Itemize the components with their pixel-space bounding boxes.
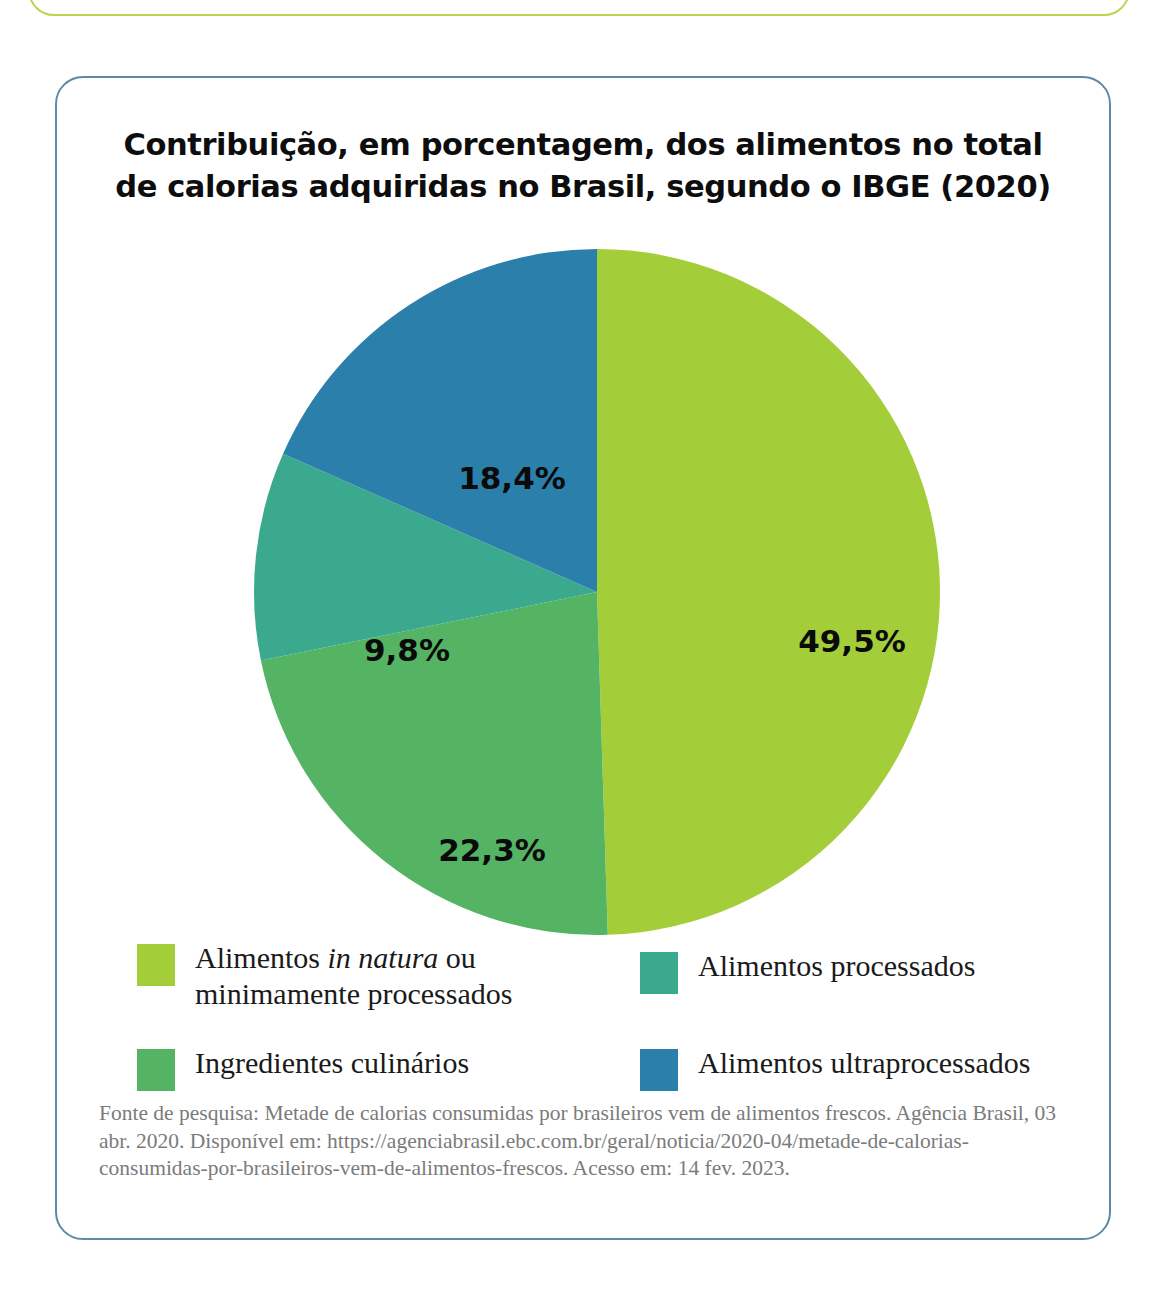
decorative-green-box-above (28, 0, 1130, 16)
pie-slice-label: 9,8% (364, 632, 450, 668)
legend-label-processados: Alimentos processados (698, 948, 975, 984)
pie-slice[interactable] (597, 249, 940, 935)
legend-swatch-ingredientes-culinarios (137, 1049, 175, 1091)
pie-slice-label: 18,4% (458, 460, 566, 496)
legend-label-ultraprocessados: Alimentos ultraprocessados (698, 1045, 1030, 1081)
legend-swatch-ultraprocessados (640, 1049, 678, 1091)
pie-slice-group (254, 249, 940, 935)
pie-slice-label: 22,3% (438, 832, 546, 868)
chart-legend: Alimentos in natura ou minimamente proce… (82, 940, 1092, 1100)
pie-chart-svg: 49,5%22,3%9,8%18,4% (242, 247, 952, 937)
chart-title: Contribuição, em porcentagem, dos alimen… (57, 124, 1109, 208)
legend-label-ingredientes-culinarios: Ingredientes culinários (195, 1045, 469, 1081)
legend-item-in-natura[interactable]: Alimentos in natura ou minimamente proce… (137, 940, 607, 1012)
legend-swatch-processados (640, 952, 678, 994)
figure-card: Contribuição, em porcentagem, dos alimen… (55, 76, 1111, 1240)
legend-item-ingredientes-culinarios[interactable]: Ingredientes culinários (137, 1045, 607, 1091)
pie-slice-label: 49,5% (798, 623, 906, 659)
source-note: Fonte de pesquisa: Metade de calorias co… (99, 1100, 1074, 1183)
chart-title-line-1: Contribuição, em porcentagem, dos alimen… (57, 124, 1109, 166)
legend-item-processados[interactable]: Alimentos processados (640, 948, 1090, 994)
chart-title-line-2: de calorias adquiridas no Brasil, segund… (57, 166, 1109, 208)
legend-item-ultraprocessados[interactable]: Alimentos ultraprocessados (640, 1045, 1090, 1091)
legend-label-in-natura: Alimentos in natura ou minimamente proce… (195, 940, 512, 1012)
legend-swatch-in-natura (137, 944, 175, 986)
pie-chart: 49,5%22,3%9,8%18,4% (242, 247, 952, 937)
